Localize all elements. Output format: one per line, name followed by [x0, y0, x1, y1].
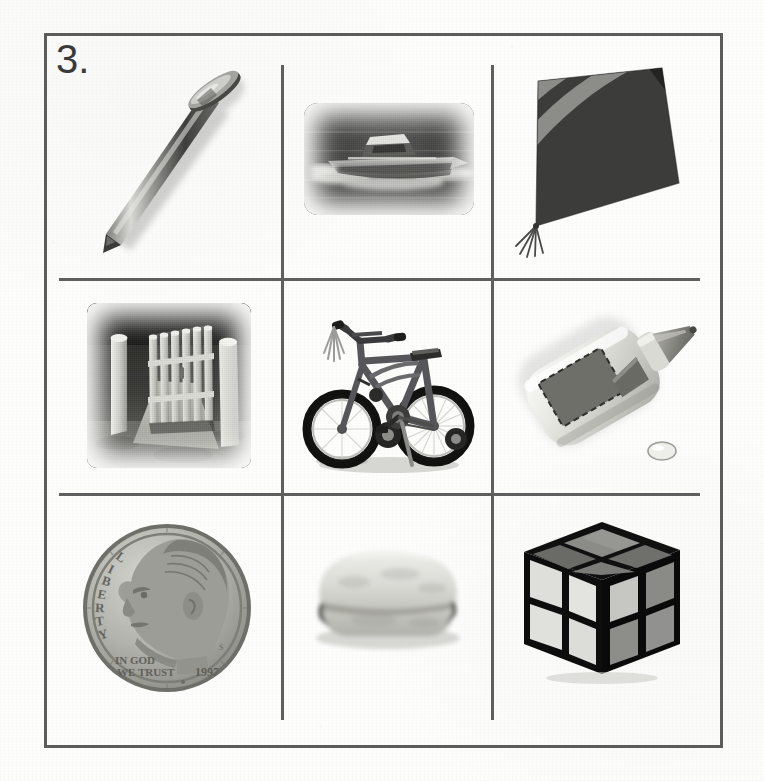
grid-cell-row2-col2[interactable]: bike	[284, 283, 491, 493]
bike-tassels	[324, 327, 344, 361]
grid-horizontal-divider-1	[59, 278, 700, 281]
svg-text:IN GOD: IN GOD	[115, 654, 155, 666]
grid-cell-row3-col2[interactable]: bun	[284, 498, 491, 720]
worksheet-page: nail	[0, 0, 764, 781]
grid-cell-row1-col3[interactable]: kite	[494, 48, 713, 278]
grid-horizontal-divider-2	[59, 493, 700, 496]
bike-photo	[284, 283, 491, 493]
dime-photo: L I B E R T Y IN GOD WE TRUST 1997	[59, 498, 281, 720]
kite-illustration	[494, 48, 713, 278]
nail-photo	[59, 48, 281, 278]
grid-cell-row2-col1[interactable]: gate	[59, 283, 281, 493]
kite-tassels	[516, 226, 543, 257]
cell-label-gate: gate	[59, 283, 60, 284]
picture-grid-frame: nail	[44, 33, 723, 748]
cube-photo	[494, 498, 713, 720]
glue-photo	[494, 283, 713, 493]
cell-label-boat: boat	[284, 48, 285, 49]
grid-cell-row2-col3[interactable]: glue	[494, 283, 713, 493]
grid-cell-row1-col2[interactable]: boat	[284, 48, 491, 278]
gate-photo	[87, 303, 251, 468]
coin-text-date: 1997	[195, 665, 219, 679]
grid-cell-row3-col3[interactable]: cube	[494, 498, 713, 720]
svg-text:S: S	[219, 643, 223, 652]
svg-text:WE TRUST: WE TRUST	[117, 666, 175, 678]
grid-cell-row3-col1[interactable]: dime	[59, 498, 281, 720]
grid-cell-row1-col1[interactable]: nail	[59, 48, 281, 278]
question-number: 3.	[56, 39, 89, 79]
bun-photo	[284, 498, 491, 720]
bike-seat	[410, 348, 442, 361]
glue-drop	[648, 442, 676, 460]
boat-photo	[304, 103, 474, 215]
